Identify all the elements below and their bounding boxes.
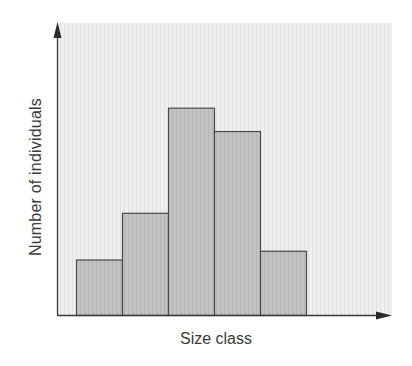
histogram-chart (0, 0, 412, 366)
histogram-bar-5 (261, 251, 307, 315)
histogram-bar-4 (215, 132, 261, 316)
histogram-bar-3 (169, 108, 215, 315)
histogram-bar-2 (123, 213, 169, 315)
y-axis-label: Number of individuals (27, 98, 45, 256)
histogram-bar-1 (77, 260, 123, 315)
x-axis-label: Size class (180, 330, 252, 348)
